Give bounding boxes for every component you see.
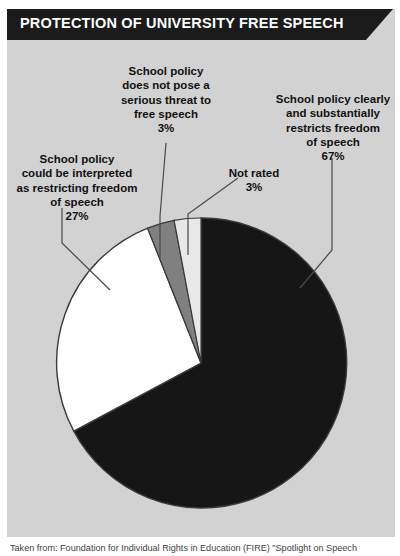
source-caption: Taken from: Foundation for Individual Ri… — [10, 543, 400, 553]
callout-could-be-interpreted-text: School policy could be interpreted as re… — [17, 153, 138, 208]
callout-restricts-clearly-text: School policy clearly and substantially … — [276, 93, 390, 148]
callout-could-be-interpreted-percent: 27% — [4, 209, 150, 223]
page-top-margin — [0, 0, 400, 9]
page-right-margin — [395, 0, 400, 556]
callout-restricts-clearly-percent: 67% — [272, 149, 394, 163]
callout-could-be-interpreted: School policy could be interpreted as re… — [4, 138, 150, 237]
callout-not-rated: Not rated 3% — [218, 152, 290, 209]
callout-no-serious-threat-text: School policy does not pose a serious th… — [121, 65, 211, 120]
chart-page: PROTECTION OF UNIVERSITY FREE SPEECH Sch… — [0, 0, 400, 556]
callout-no-serious-threat: School policy does not pose a serious th… — [107, 50, 225, 149]
page-title: PROTECTION OF UNIVERSITY FREE SPEECH — [20, 15, 344, 31]
callout-restricts-clearly: School policy clearly and substantially … — [272, 78, 394, 177]
callout-no-serious-threat-percent: 3% — [107, 121, 225, 135]
callout-not-rated-text: Not rated — [229, 167, 279, 179]
callout-not-rated-percent: 3% — [218, 180, 290, 194]
page-left-margin — [0, 0, 7, 556]
